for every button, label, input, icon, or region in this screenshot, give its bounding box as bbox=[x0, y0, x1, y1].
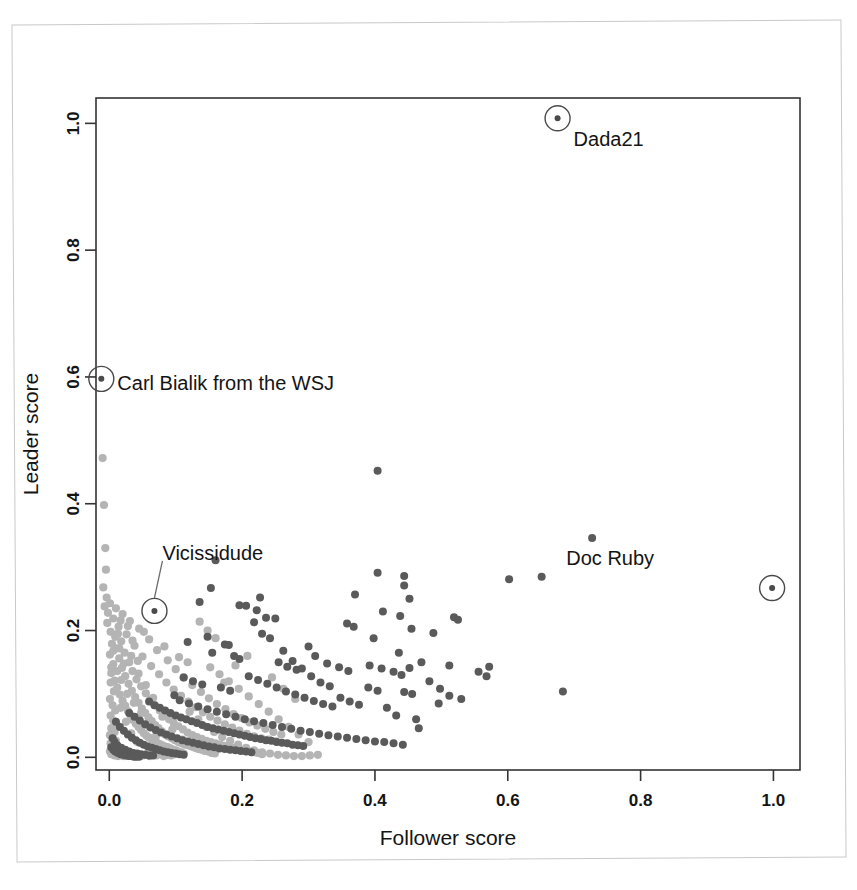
data-point bbox=[390, 739, 398, 747]
data-point bbox=[289, 657, 297, 665]
data-point bbox=[336, 694, 344, 702]
data-point bbox=[205, 694, 213, 702]
data-point bbox=[211, 634, 219, 642]
data-point bbox=[306, 728, 314, 736]
data-point bbox=[334, 732, 342, 740]
data-point bbox=[230, 652, 238, 660]
data-point bbox=[123, 690, 131, 698]
data-point bbox=[407, 625, 415, 633]
data-point bbox=[197, 688, 205, 696]
annotation-doc-ruby: Doc Ruby bbox=[566, 547, 784, 600]
data-point bbox=[275, 715, 283, 723]
data-point bbox=[445, 692, 453, 700]
data-point bbox=[311, 652, 319, 660]
data-point bbox=[160, 642, 168, 650]
scatter-plot-figure: 0.00.20.40.60.81.00.00.20.40.60.81.0 Dad… bbox=[0, 0, 857, 890]
data-point bbox=[206, 663, 214, 671]
x-tick-label: 0.2 bbox=[230, 791, 254, 810]
data-point bbox=[185, 699, 193, 707]
data-point bbox=[379, 608, 387, 616]
data-point bbox=[213, 716, 221, 724]
data-point bbox=[282, 751, 290, 759]
data-point bbox=[206, 713, 214, 721]
data-point bbox=[436, 685, 444, 693]
data-point bbox=[116, 704, 124, 712]
data-point bbox=[127, 652, 135, 660]
data-point bbox=[100, 501, 108, 509]
data-point bbox=[298, 752, 306, 760]
data-point bbox=[271, 614, 279, 622]
data-point bbox=[128, 637, 136, 645]
data-point bbox=[134, 670, 142, 678]
data-point bbox=[275, 658, 283, 666]
annotation-carl-bialik-from-the-wsj: Carl Bialik from the WSJ bbox=[89, 366, 334, 394]
data-point bbox=[265, 708, 273, 716]
data-point bbox=[213, 708, 221, 716]
data-point bbox=[164, 656, 172, 664]
data-point bbox=[588, 534, 596, 542]
y-tick-label: 1.0 bbox=[65, 112, 84, 136]
data-point bbox=[400, 688, 408, 696]
data-point bbox=[207, 584, 215, 592]
data-point bbox=[124, 680, 132, 688]
highlight-point bbox=[769, 585, 775, 591]
data-point bbox=[180, 673, 188, 681]
data-point bbox=[99, 583, 107, 591]
data-point bbox=[122, 630, 130, 638]
data-point bbox=[328, 703, 336, 711]
annotation-label: Dada21 bbox=[574, 128, 644, 150]
data-point bbox=[319, 700, 327, 708]
data-point bbox=[204, 633, 212, 641]
data-point bbox=[366, 661, 374, 669]
data-point bbox=[134, 657, 142, 665]
data-point bbox=[344, 667, 352, 675]
data-point bbox=[269, 721, 277, 729]
data-point bbox=[383, 704, 391, 712]
data-point bbox=[231, 713, 239, 721]
data-point bbox=[301, 694, 309, 702]
points-layer bbox=[99, 454, 597, 761]
annotation-label: Doc Ruby bbox=[566, 547, 654, 569]
data-point bbox=[445, 661, 453, 669]
data-point bbox=[395, 649, 403, 657]
data-point bbox=[196, 598, 204, 606]
x-tick-label: 0.8 bbox=[629, 791, 653, 810]
data-point bbox=[435, 699, 443, 707]
data-point bbox=[371, 737, 379, 745]
data-point bbox=[198, 680, 206, 688]
data-point bbox=[102, 566, 110, 574]
data-point bbox=[483, 672, 491, 680]
data-point bbox=[454, 616, 462, 624]
data-point bbox=[297, 727, 305, 735]
data-point bbox=[282, 687, 290, 695]
data-point bbox=[559, 687, 567, 695]
x-tick-label: 0.0 bbox=[97, 791, 121, 810]
data-point bbox=[215, 670, 223, 678]
data-point bbox=[310, 697, 318, 705]
y-axis-title: Leader score bbox=[19, 373, 42, 496]
data-point bbox=[392, 711, 400, 719]
data-point bbox=[184, 638, 192, 646]
data-point bbox=[120, 659, 128, 667]
data-point bbox=[124, 622, 132, 630]
data-point bbox=[290, 752, 298, 760]
data-point bbox=[258, 748, 266, 756]
data-point bbox=[266, 634, 274, 642]
x-axis-title: Follower score bbox=[380, 826, 517, 849]
data-point bbox=[335, 663, 343, 671]
data-point bbox=[162, 678, 170, 686]
data-point bbox=[250, 618, 258, 626]
leader-line bbox=[154, 561, 162, 598]
data-point bbox=[307, 672, 315, 680]
data-point bbox=[256, 594, 264, 602]
data-point bbox=[176, 696, 184, 704]
data-point bbox=[396, 612, 404, 620]
highlight-point bbox=[98, 376, 104, 382]
data-point bbox=[425, 677, 433, 685]
data-point bbox=[380, 738, 388, 746]
y-tick-label: 0.8 bbox=[65, 238, 84, 262]
axes-layer: 0.00.20.40.60.81.00.00.20.40.60.81.0 bbox=[65, 98, 801, 810]
data-point bbox=[475, 668, 483, 676]
data-point bbox=[117, 676, 125, 684]
data-point bbox=[186, 708, 194, 716]
